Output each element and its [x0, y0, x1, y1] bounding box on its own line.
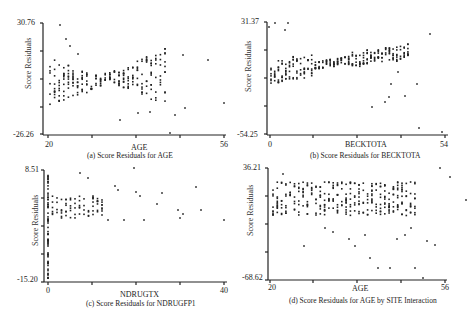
x-max-label-b: 54	[440, 140, 448, 149]
x-max-label-d: 56	[441, 283, 449, 292]
x-axis-label-c: NDRUGTX	[120, 290, 159, 299]
x-max-label-a: 56	[220, 140, 228, 149]
panel-c: 8.51 -15.20 0 40 NDRUGTX Score Residuals…	[0, 160, 235, 320]
y-axis-label-d: Score Residuals	[246, 185, 255, 236]
y-max-label-c: 8.51	[25, 165, 39, 174]
y-max-label-d: 36.21	[243, 163, 261, 172]
x-axis-label-d: AGE	[352, 284, 368, 293]
plot-b	[235, 0, 469, 160]
y-min-label-d: -68.62	[242, 273, 263, 282]
caption-d: (d) Score Residuals for AGE by SITE Inte…	[289, 296, 437, 305]
x-min-label-a: 20	[45, 140, 53, 149]
caption-b: (b) Score Residuals for BECKTOTA	[310, 151, 421, 160]
y-axis-label-b: Score Residuals	[244, 41, 253, 92]
panel-b: 31.37 -54.25 0 54 BECKTOTA Score Residua…	[235, 0, 469, 160]
panel-a: 30.76 -26.26 20 56 AGE Score Residuals (…	[0, 0, 235, 160]
panel-d: 36.21 -68.62 20 56 AGE Score Residuals (…	[235, 160, 469, 320]
y-max-label-a: 30.76	[17, 18, 35, 27]
y-axis-label-c: Score Residuals	[31, 195, 40, 246]
y-max-label-b: 31.37	[241, 17, 259, 26]
caption-a: (a) Score Residuals for AGE	[87, 151, 173, 160]
x-min-label-d: 20	[268, 283, 276, 292]
y-min-label-b: -54.25	[237, 130, 258, 139]
y-axis-label-a: Score Residuals	[24, 38, 33, 89]
plot-a	[0, 0, 235, 160]
caption-c: (c) Score Residuals for NDRUGFP1	[86, 299, 196, 308]
x-min-label-b: 0	[268, 140, 272, 149]
x-max-label-c: 40	[220, 286, 228, 295]
x-axis-label-b: BECKTOTA	[345, 140, 387, 149]
y-min-label-c: -15.20	[17, 275, 38, 284]
y-min-label-a: -26.26	[13, 130, 34, 139]
x-min-label-c: 0	[46, 286, 50, 295]
